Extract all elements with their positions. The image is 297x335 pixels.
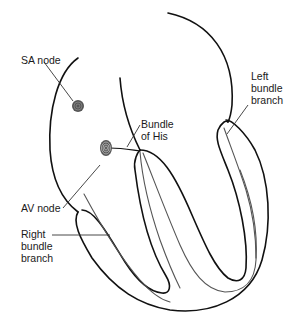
bundle-of-his-path xyxy=(110,148,140,151)
left-bundle-branch-leader xyxy=(227,105,248,134)
sa-node-icon xyxy=(72,100,84,112)
heart-conduction-diagram xyxy=(0,0,297,335)
label-bundle-of-his: Bundle of His xyxy=(141,118,174,142)
av-node-icon xyxy=(100,140,112,156)
label-left-bundle-branch: Left bundle branch xyxy=(251,70,283,106)
label-right-bundle-branch: Right bundle branch xyxy=(21,228,53,264)
right-atrium-outline xyxy=(50,58,78,212)
av-node-leader xyxy=(63,165,100,208)
right-ventricle-inner-outline xyxy=(82,150,169,293)
label-av-node: AV node xyxy=(21,202,61,214)
left-bundle-branch-path xyxy=(224,128,256,258)
septal-inner-path xyxy=(140,152,180,288)
bundle-of-his-left-path xyxy=(143,153,256,292)
right-bundle-branch-path xyxy=(84,194,170,302)
left-atrium-outline xyxy=(168,13,232,122)
septum-upper-outline xyxy=(120,78,140,150)
label-sa-node: SA node xyxy=(21,54,61,66)
bundle-of-his-leader xyxy=(127,125,140,147)
